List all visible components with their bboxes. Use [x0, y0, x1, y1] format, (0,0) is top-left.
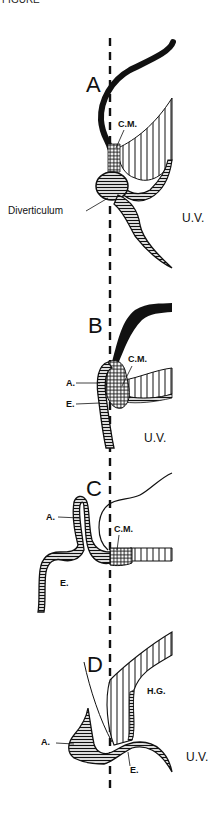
- panel-b: B C.M. A. E. U.V.: [66, 303, 172, 448]
- panel-c-outline: [99, 473, 172, 550]
- panel-a-diverticulum: [96, 172, 128, 200]
- panel-b-vertical-hatch: [124, 368, 172, 398]
- panel-a-cm-region: [108, 144, 120, 172]
- panel-b-a-label: A.: [66, 378, 75, 388]
- panel-c-e-label: E.: [60, 578, 69, 588]
- panel-b-e-label: E.: [66, 399, 75, 409]
- panel-c-vertical-hatch: [130, 548, 172, 561]
- embryology-diagram: A C.M. Diverticulum U.V. B C.M. A. E. U.…: [0, 0, 220, 820]
- panel-d-label: D: [87, 652, 103, 677]
- panel-a-diverticulum-label: Diverticulum: [8, 205, 63, 216]
- panel-b-cm-label: C.M.: [128, 354, 147, 364]
- panel-c-a-label: A.: [46, 512, 55, 522]
- panel-c-cm-region: [110, 548, 132, 566]
- panel-d-e-label: E.: [130, 765, 139, 775]
- panel-c-label: C: [86, 476, 102, 501]
- panel-d: D H.G. A. E. U.V.: [41, 632, 208, 775]
- panel-a-uv-label: U.V.: [182, 211, 204, 225]
- panel-b-label: B: [88, 313, 103, 338]
- panel-a-vertical-hatch: [118, 98, 172, 180]
- panel-d-a-label: A.: [41, 737, 50, 747]
- panel-a-cm-label: C.M.: [118, 119, 137, 129]
- panel-a-tail: [114, 195, 172, 268]
- panel-a: A C.M. Diverticulum U.V.: [8, 42, 204, 268]
- panel-d-uv-label: U.V.: [186, 750, 208, 764]
- panel-a-label: A: [86, 72, 101, 97]
- panel-b-uv-label: U.V.: [144, 431, 166, 445]
- panel-c-cm-label: C.M.: [114, 524, 133, 534]
- panel-d-hg-label: H.G.: [147, 686, 166, 696]
- panel-c: C A. C.M. E.: [38, 473, 172, 612]
